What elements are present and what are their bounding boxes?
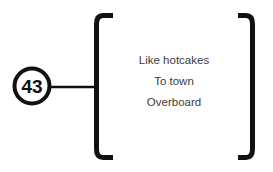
bracket-content-list: Like hotcakes To town Overboard [139,54,210,108]
right-bracket-icon [238,16,253,158]
node-label: 43 [21,76,42,97]
left-bracket-icon [97,16,114,158]
list-item: Like hotcakes [139,54,210,66]
list-item: Overboard [147,96,201,108]
list-item: To town [154,75,194,87]
diagram-figure: 43 Like hotcakes To town Overboard [0,0,273,172]
node-43[interactable]: 43 [15,69,50,104]
diagram-canvas: 43 Like hotcakes To town Overboard [0,0,273,172]
